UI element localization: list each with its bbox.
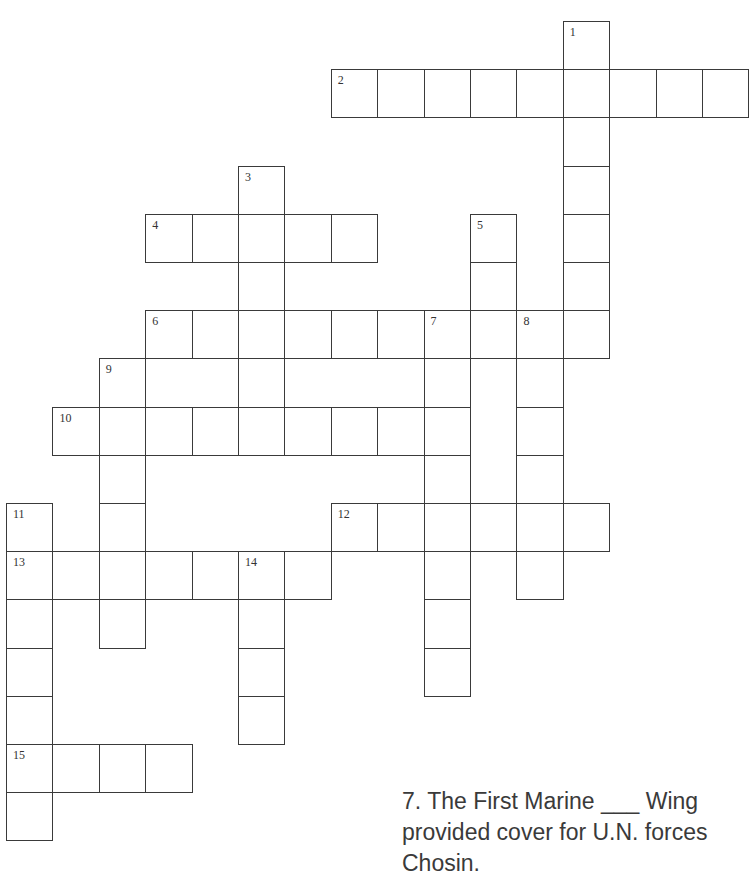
clue-number: 6 [152, 315, 158, 327]
clue-number: 5 [477, 219, 483, 231]
clue-number: 8 [523, 315, 529, 327]
crossword-cell[interactable]: 10 [52, 407, 99, 456]
crossword-cell[interactable] [99, 503, 146, 552]
crossword-cell[interactable]: 6 [145, 310, 192, 359]
crossword-cell[interactable] [52, 744, 99, 793]
clue-number: 13 [13, 556, 25, 568]
crossword-cell[interactable] [192, 551, 239, 600]
crossword-cell[interactable] [609, 69, 656, 118]
crossword-cell[interactable]: 2 [331, 69, 378, 118]
crossword-cell[interactable] [563, 69, 610, 118]
crossword-cell[interactable] [377, 310, 424, 359]
crossword-cell[interactable] [563, 310, 610, 359]
crossword-cell[interactable]: 15 [6, 744, 53, 793]
crossword-cell[interactable] [424, 455, 471, 504]
crossword-cell[interactable] [238, 214, 285, 263]
crossword-cell[interactable]: 9 [99, 358, 146, 407]
crossword-cell[interactable] [424, 599, 471, 648]
crossword-cell[interactable] [424, 503, 471, 552]
crossword-cell[interactable] [284, 214, 331, 263]
crossword-cell[interactable] [284, 407, 331, 456]
crossword-cell[interactable] [6, 696, 53, 745]
clue-7-down: 7. The First Marine ___ Wing provided co… [402, 786, 755, 875]
crossword-cell[interactable] [331, 214, 378, 263]
crossword-cell[interactable] [238, 310, 285, 359]
crossword-cell[interactable] [145, 744, 192, 793]
crossword-cell[interactable] [516, 358, 563, 407]
clue-number: 10 [59, 412, 71, 424]
crossword-cell[interactable] [99, 407, 146, 456]
clue-number: 3 [245, 171, 251, 183]
crossword-cell[interactable] [516, 551, 563, 600]
clue-number: 11 [13, 508, 25, 520]
crossword-cell[interactable]: 11 [6, 503, 53, 552]
clue-number: 15 [13, 749, 25, 761]
clue-number: 1 [570, 26, 576, 38]
crossword-cell[interactable] [424, 407, 471, 456]
crossword-cell[interactable] [377, 69, 424, 118]
crossword-cell[interactable] [470, 310, 517, 359]
clue-number: 12 [338, 508, 350, 520]
crossword-cell[interactable]: 13 [6, 551, 53, 600]
crossword-cell[interactable] [238, 262, 285, 311]
crossword-cell[interactable] [238, 358, 285, 407]
crossword-cell[interactable] [424, 648, 471, 697]
crossword-cell[interactable] [470, 262, 517, 311]
crossword-cell[interactable] [516, 407, 563, 456]
crossword-cell[interactable] [192, 214, 239, 263]
crossword-cell[interactable]: 4 [145, 214, 192, 263]
crossword-cell[interactable]: 1 [563, 21, 610, 70]
crossword-cell[interactable] [6, 599, 53, 648]
crossword-cell[interactable] [516, 455, 563, 504]
crossword-cell[interactable] [563, 503, 610, 552]
crossword-cell[interactable] [563, 262, 610, 311]
crossword-cell[interactable]: 12 [331, 503, 378, 552]
crossword-cell[interactable] [563, 117, 610, 166]
crossword-cell[interactable] [238, 407, 285, 456]
crossword-cell[interactable] [192, 310, 239, 359]
clue-number: 9 [106, 363, 112, 375]
crossword-cell[interactable] [238, 648, 285, 697]
crossword-cell[interactable] [192, 407, 239, 456]
crossword-cell[interactable] [656, 69, 703, 118]
crossword-cell[interactable] [99, 599, 146, 648]
clue-line: Chosin. [402, 848, 755, 875]
crossword-cell[interactable] [424, 358, 471, 407]
crossword-cell[interactable] [145, 551, 192, 600]
crossword-cell[interactable] [470, 503, 517, 552]
clue-number: 7 [431, 315, 437, 327]
crossword-cell[interactable] [238, 696, 285, 745]
crossword-cell[interactable]: 5 [470, 214, 517, 263]
crossword-cell[interactable] [377, 503, 424, 552]
crossword-cell[interactable] [424, 69, 471, 118]
crossword-cell[interactable] [331, 310, 378, 359]
crossword-cell[interactable] [99, 744, 146, 793]
crossword-cell[interactable]: 14 [238, 551, 285, 600]
crossword-cell[interactable] [563, 166, 610, 215]
crossword-cell[interactable] [99, 455, 146, 504]
crossword-cell[interactable] [284, 551, 331, 600]
clue-number: 14 [245, 556, 257, 568]
crossword-cell[interactable] [516, 503, 563, 552]
crossword-cell[interactable] [424, 551, 471, 600]
clue-line: 7. The First Marine ___ Wing [402, 786, 755, 817]
crossword-cell[interactable] [377, 407, 424, 456]
crossword-cell[interactable] [99, 551, 146, 600]
crossword-cell[interactable]: 8 [516, 310, 563, 359]
crossword-cell[interactable] [516, 69, 563, 118]
crossword-cell[interactable] [52, 551, 99, 600]
crossword-cell[interactable] [145, 407, 192, 456]
crossword-cell[interactable] [563, 214, 610, 263]
crossword-cell[interactable] [702, 69, 749, 118]
clue-number: 4 [152, 219, 158, 231]
crossword-cell[interactable] [470, 69, 517, 118]
crossword-cell[interactable]: 7 [424, 310, 471, 359]
crossword-cell[interactable]: 3 [238, 166, 285, 215]
crossword-cell[interactable] [6, 648, 53, 697]
crossword-cell[interactable] [6, 792, 53, 841]
crossword-cell[interactable] [284, 310, 331, 359]
clue-line: provided cover for U.N. forces [402, 817, 755, 848]
crossword-cell[interactable] [238, 599, 285, 648]
crossword-cell[interactable] [331, 407, 378, 456]
